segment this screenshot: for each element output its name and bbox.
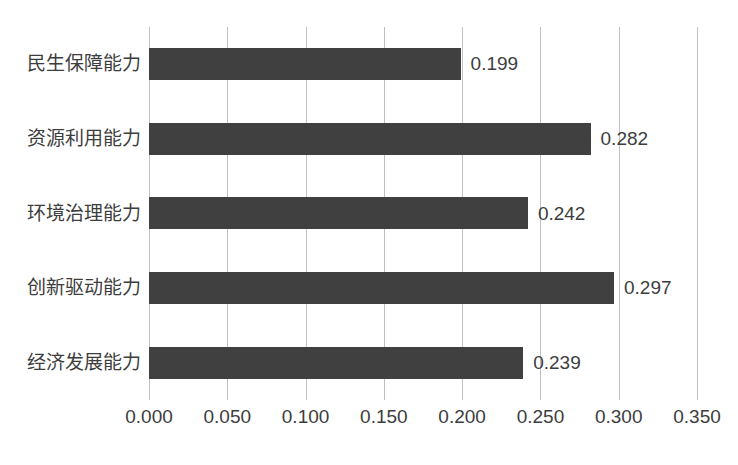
x-tick-label: 0.300: [595, 406, 643, 428]
x-tick-label: 0.200: [438, 406, 486, 428]
bar[interactable]: [149, 197, 528, 229]
data-label: 0.282: [601, 129, 649, 148]
bar[interactable]: [149, 48, 461, 80]
category-label: 经济发展能力: [0, 353, 141, 372]
x-tick-label: 0.250: [517, 406, 565, 428]
x-tick-label: 0.100: [282, 406, 330, 428]
x-tick-label: 0.150: [360, 406, 408, 428]
category-label: 创新驱动能力: [0, 278, 141, 297]
bar[interactable]: [149, 347, 523, 379]
category-label: 资源利用能力: [0, 129, 141, 148]
bar[interactable]: [149, 123, 591, 155]
bar-chart: 民生保障能力 资源利用能力 环境治理能力 创新驱动能力 经济发展能力 0.199…: [0, 0, 738, 465]
data-label: 0.239: [533, 353, 581, 372]
gridline-7: [697, 27, 698, 400]
x-tick-label: 0.000: [125, 406, 173, 428]
data-label: 0.199: [471, 54, 519, 73]
bar-band: [149, 176, 697, 251]
category-label: 民生保障能力: [0, 54, 141, 73]
data-label: 0.242: [538, 204, 586, 223]
bar-band: [149, 325, 697, 400]
category-label: 环境治理能力: [0, 204, 141, 223]
bar-band: [149, 251, 697, 326]
x-tick-label: 0.350: [673, 406, 721, 428]
bar-band: [149, 27, 697, 102]
x-axis-labels: 0.000 0.050 0.100 0.150 0.200 0.250 0.30…: [0, 406, 738, 436]
category-axis-labels: 民生保障能力 资源利用能力 环境治理能力 创新驱动能力 经济发展能力: [0, 27, 141, 400]
plot-area: [149, 27, 697, 400]
x-tick-label: 0.050: [204, 406, 252, 428]
bar[interactable]: [149, 272, 614, 304]
data-label: 0.297: [624, 278, 672, 297]
